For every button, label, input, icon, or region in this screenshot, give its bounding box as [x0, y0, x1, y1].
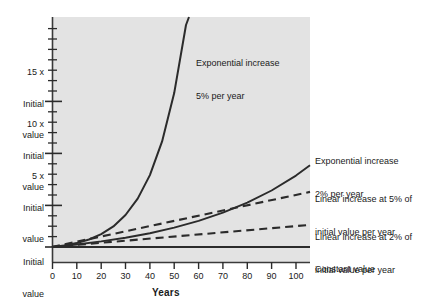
x-tick-label-100: 100	[286, 271, 306, 282]
x-tick-label-20: 20	[91, 271, 111, 282]
growth-comparison-chart: 15 x Initial value 10 x Initial value 5 …	[0, 0, 443, 307]
annotation-constant-value: Constant value	[315, 242, 375, 297]
x-tick-label-80: 80	[237, 271, 257, 282]
y-tick-label-initial: Initial value	[4, 236, 44, 307]
x-tick-label-70: 70	[213, 271, 233, 282]
x-axis-title: Years	[152, 288, 180, 299]
x-tick-label-50: 50	[164, 271, 184, 282]
x-tick-label-10: 10	[67, 271, 87, 282]
annotation-exponential-5pct: Exponential increase 5% per year	[196, 36, 280, 124]
x-tick-label-40: 40	[140, 271, 160, 282]
x-tick-label-60: 60	[189, 271, 209, 282]
x-tick-label-90: 90	[262, 271, 282, 282]
x-tick-label-0: 0	[43, 271, 63, 282]
x-tick-label-30: 30	[116, 271, 136, 282]
